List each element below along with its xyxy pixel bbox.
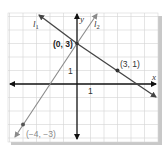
point-neg4-neg3 <box>21 123 25 127</box>
point-label-3-1: (3, 1) <box>120 59 140 69</box>
point-label-neg4-neg3: (−4, −3) <box>26 129 56 139</box>
x-unit-label: 1 <box>88 86 93 96</box>
grid-background <box>8 13 158 142</box>
point-label-0-3: (0, 3) <box>53 39 73 49</box>
coordinate-graph: x y 1 1 l1 l2 (0, 3) (3, 1) (−4, −3) <box>0 0 167 150</box>
x-axis-label: x <box>151 72 156 82</box>
y-axis-label: y <box>79 14 84 24</box>
point-3-1 <box>116 69 120 73</box>
y-unit-label: 1 <box>68 66 73 76</box>
point-0-3 <box>75 42 79 46</box>
